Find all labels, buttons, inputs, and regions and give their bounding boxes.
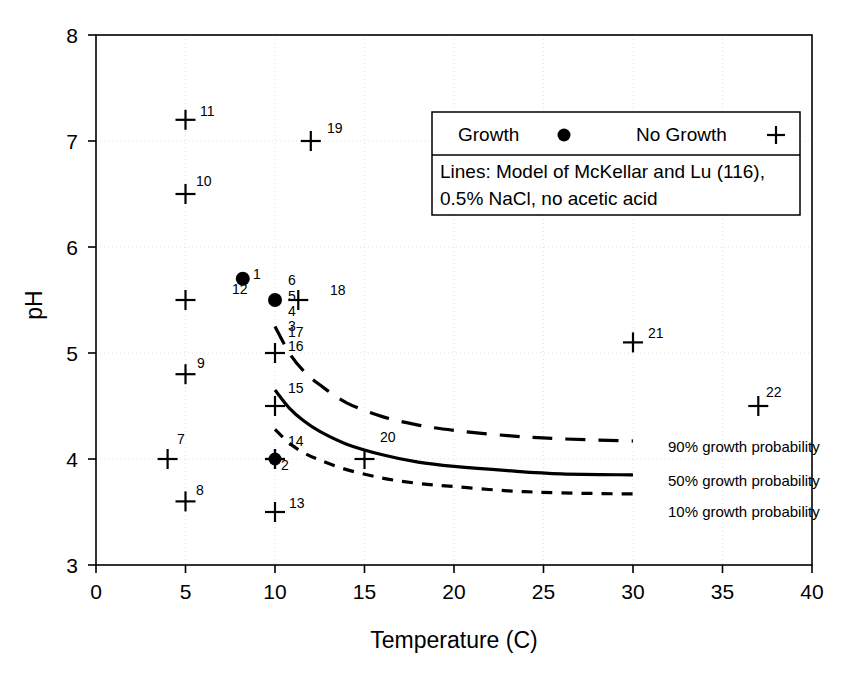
point-label-18: 18 <box>330 282 346 298</box>
point-label-15: 15 <box>288 380 304 396</box>
point-label-11: 11 <box>200 103 215 119</box>
chart-figure: 8 7 6 5 4 3 pH 0 5 10 15 20 25 30 35 40 … <box>0 0 853 680</box>
point-label-22: 22 <box>766 384 782 400</box>
point-label-13: 13 <box>289 495 305 511</box>
point-label-19: 19 <box>327 120 343 136</box>
curve-label-50: 50% growth probability <box>668 472 820 489</box>
point-label-6: 6 <box>288 272 296 288</box>
point-label-10: 10 <box>196 173 212 189</box>
data-point-14-dot <box>269 453 282 466</box>
y-tick-label-4: 4 <box>66 448 78 471</box>
point-label-20: 20 <box>380 429 396 445</box>
x-tick-label-35: 35 <box>711 580 734 603</box>
point-label-4: 4 <box>288 303 296 319</box>
y-axis-title: pH <box>21 290 47 319</box>
x-tick-label-25: 25 <box>532 580 555 603</box>
x-tick-label-30: 30 <box>621 580 644 603</box>
point-label-17: 17 <box>288 324 304 340</box>
data-point-13 <box>265 502 285 522</box>
point-label-2: 2 <box>281 457 289 473</box>
data-point-11 <box>176 110 196 130</box>
point-label-1: 1 <box>253 266 261 282</box>
point-label-12: 12 <box>232 281 248 297</box>
point-label-14: 14 <box>288 433 304 449</box>
point-label-21: 21 <box>648 325 664 341</box>
legend-note-line1: Lines: Model of McKellar and Lu (116), <box>440 161 765 182</box>
y-tick-label-8: 8 <box>66 24 78 47</box>
x-axis-title: Temperature (C) <box>370 627 537 653</box>
curve-labels: 90% growth probability 50% growth probab… <box>668 438 820 520</box>
data-point-12 <box>176 290 196 310</box>
legend: Growth No Growth Lines: Model of McKella… <box>432 112 800 215</box>
curve-label-10: 10% growth probability <box>668 503 820 520</box>
legend-note-line2: 0.5% NaCl, no acetic acid <box>440 188 658 209</box>
point-label-5: 5 <box>288 288 296 304</box>
point-label-8: 8 <box>196 482 204 498</box>
x-tick-label-0: 0 <box>90 580 102 603</box>
data-point-5 <box>268 293 282 307</box>
y-tick-label-3: 3 <box>66 554 78 577</box>
point-label-16: 16 <box>288 338 304 354</box>
point-label-9: 9 <box>197 355 205 371</box>
data-point-19 <box>301 131 321 151</box>
data-point-7 <box>158 449 178 469</box>
data-point-8 <box>176 491 196 511</box>
curve-label-90: 90% growth probability <box>668 438 820 455</box>
data-point-16 <box>265 343 285 363</box>
y-tick-label-6: 6 <box>66 236 78 259</box>
filled-circle-marker <box>558 129 571 142</box>
x-tick-label-5: 5 <box>180 580 192 603</box>
data-point-21 <box>623 332 643 352</box>
y-axis: 8 7 6 5 4 3 <box>66 24 96 577</box>
point-label-7: 7 <box>177 431 185 447</box>
y-tick-label-7: 7 <box>66 130 78 153</box>
x-tick-label-40: 40 <box>800 580 823 603</box>
data-point-9 <box>176 364 196 384</box>
data-point-10 <box>176 184 196 204</box>
x-tick-label-15: 15 <box>353 580 376 603</box>
x-axis: 0 5 10 15 20 25 30 35 40 <box>90 565 824 603</box>
legend-growth-label: Growth <box>458 124 519 145</box>
x-tick-label-20: 20 <box>442 580 465 603</box>
legend-no-growth-label: No Growth <box>636 124 727 145</box>
y-tick-label-5: 5 <box>66 342 78 365</box>
chart-svg: 8 7 6 5 4 3 pH 0 5 10 15 20 25 30 35 40 … <box>0 0 853 680</box>
x-tick-label-10: 10 <box>263 580 286 603</box>
